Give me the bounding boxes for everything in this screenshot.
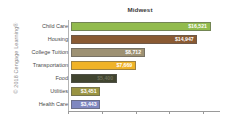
bar-track: $8,712 — [71, 46, 220, 59]
bar-health-care: $3,443 — [71, 100, 100, 109]
bar-track: $16,521 — [71, 20, 220, 33]
bar-row: Health Care $3,443 — [20, 98, 220, 111]
bar-row: Child Care $16,521 — [20, 20, 220, 33]
bar-rows: Child Care $16,521 Housing $14,947 Colle… — [20, 20, 220, 111]
bar-value-college-tuition: $8,712 — [125, 50, 143, 55]
category-label-child-care: Child Care — [20, 24, 71, 30]
copyright-rail: © 2018 Cengage Learning® — [0, 0, 20, 126]
category-label-health-care: Health Care — [20, 102, 71, 108]
category-label-food: Food — [20, 76, 71, 82]
x-axis-line — [68, 111, 220, 112]
bar-value-transportation: $7,669 — [116, 63, 134, 68]
category-label-housing: Housing — [20, 37, 71, 43]
bar-value-food: $5,400 — [97, 76, 115, 81]
bar-value-housing: $14,947 — [175, 37, 196, 42]
bar-track: $3,443 — [71, 98, 220, 111]
bar-value-utilities: $3,451 — [81, 89, 99, 94]
bar-utilities: $3,451 — [71, 87, 100, 96]
copyright-notice: © 2018 Cengage Learning® — [13, 8, 19, 108]
bar-row: Food $5,400 — [20, 72, 220, 85]
plot-area: Child Care $16,521 Housing $14,947 Colle… — [20, 20, 220, 118]
bar-row: Utilities $3,451 — [20, 85, 220, 98]
x-axis-tick — [68, 111, 69, 114]
bar-value-child-care: $16,521 — [188, 24, 209, 29]
bar-transportation: $7,669 — [71, 61, 136, 70]
bar-child-care: $16,521 — [71, 22, 211, 31]
x-axis-tick — [102, 111, 103, 114]
category-label-utilities: Utilities — [20, 89, 71, 95]
bar-college-tuition: $8,712 — [71, 48, 145, 57]
bar-track: $14,947 — [71, 33, 220, 46]
x-axis-tick — [203, 111, 204, 114]
x-axis-tick — [136, 111, 137, 114]
category-label-transportation: Transportation — [20, 63, 71, 69]
bar-food: $5,400 — [71, 74, 117, 83]
bar-track: $3,451 — [71, 85, 220, 98]
bar-row: College Tuition $8,712 — [20, 46, 220, 59]
bar-value-health-care: $3,443 — [81, 102, 99, 107]
category-label-college-tuition: College Tuition — [20, 50, 71, 56]
chart-title: Midwest — [60, 6, 220, 13]
bar-row: Housing $14,947 — [20, 33, 220, 46]
bar-row: Transportation $7,669 — [20, 59, 220, 72]
chart-figure: © 2018 Cengage Learning® Midwest Child C… — [0, 0, 228, 126]
bar-housing: $14,947 — [71, 35, 197, 44]
x-axis-tick — [169, 111, 170, 114]
bar-track: $7,669 — [71, 59, 220, 72]
bar-track: $5,400 — [71, 72, 220, 85]
